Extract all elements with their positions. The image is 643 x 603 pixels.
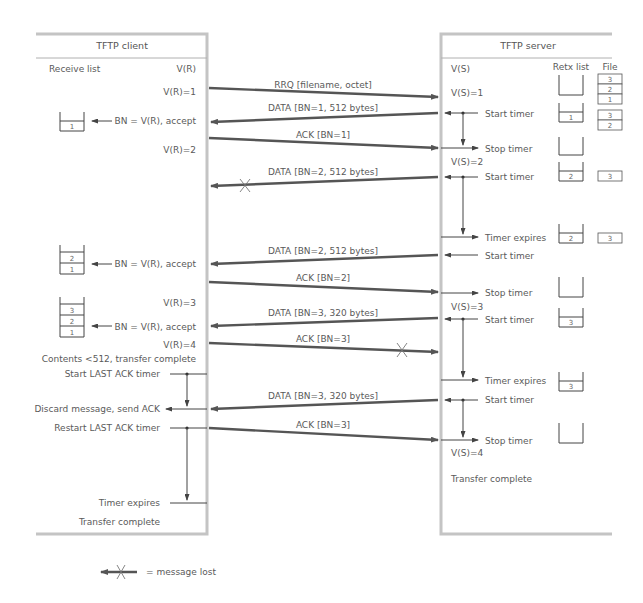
message-data-bn1: DATA [BN=1, 512 bytes]: [211, 103, 438, 122]
svg-text:DATA [BN=2, 512 bytes]: DATA [BN=2, 512 bytes]: [268, 246, 378, 256]
svg-text:3: 3: [608, 76, 612, 84]
server-title: TFTP server: [499, 40, 556, 51]
svg-text:2: 2: [569, 173, 573, 181]
svg-text:2: 2: [70, 255, 74, 263]
client-title: TFTP client: [95, 40, 148, 51]
file-stack-1: 3 2: [598, 110, 622, 130]
message-data-bn2-lost: DATA [BN=2, 512 bytes]: [211, 167, 438, 192]
svg-text:ACK [BN=3]: ACK [BN=3]: [296, 420, 350, 430]
vr-label: V(R): [177, 64, 196, 74]
server-event-vs1: V(S)=1: [451, 88, 483, 98]
retx-list-3: 2: [559, 162, 583, 181]
server-event-start1: Start timer: [485, 109, 534, 119]
svg-text:ACK [BN=2]: ACK [BN=2]: [296, 273, 350, 283]
client-event-restart-last-ack: Restart LAST ACK timer: [54, 423, 160, 433]
legend-lost-label: = message lost: [146, 567, 216, 577]
svg-text:DATA [BN=1, 512 bytes]: DATA [BN=1, 512 bytes]: [268, 103, 378, 113]
server-event-stop2: Stop timer: [485, 288, 533, 298]
server-event-start3b: Start timer: [485, 395, 534, 405]
svg-text:3: 3: [70, 307, 74, 315]
server-event-start3: Start timer: [485, 315, 534, 325]
svg-text:2: 2: [70, 318, 74, 326]
svg-text:DATA [BN=3, 320 bytes]: DATA [BN=3, 320 bytes]: [268, 308, 378, 318]
message-rrq: RRQ [filename, octet]: [209, 80, 438, 97]
client-event-vr3: V(R)=3: [163, 298, 196, 308]
svg-text:3: 3: [608, 235, 612, 243]
client-event-start-last-ack: Start LAST ACK timer: [65, 369, 161, 379]
server-event-transfer-complete: Transfer complete: [450, 474, 533, 484]
client-event-vr1: V(R)=1: [163, 87, 196, 97]
svg-text:3: 3: [608, 173, 612, 181]
file-stack-2: 3: [598, 171, 622, 181]
svg-text:2: 2: [608, 122, 612, 130]
svg-text:3: 3: [569, 383, 573, 391]
messages: RRQ [filename, octet] DATA [BN=1, 512 by…: [209, 80, 438, 440]
svg-text:2: 2: [569, 235, 573, 243]
retx-list-6: 3: [559, 308, 583, 327]
message-ack-bn3-resend: ACK [BN=3]: [209, 420, 438, 440]
server-event-expire3: Timer expires: [484, 376, 547, 386]
svg-text:1: 1: [569, 114, 573, 122]
client-event-contents: Contents <512, transfer complete: [42, 354, 197, 364]
svg-text:3: 3: [569, 319, 573, 327]
file-label: File: [602, 62, 618, 72]
message-ack-bn2: ACK [BN=2]: [209, 273, 438, 292]
svg-text:1: 1: [70, 266, 74, 274]
svg-text:2: 2: [608, 86, 612, 94]
server-event-vs2: V(S)=2: [451, 157, 483, 167]
server-event-vs4: V(S)=4: [451, 448, 483, 458]
client-event-discard: Discard message, send ACK: [34, 404, 161, 414]
client-event-accept1: BN = V(R), accept: [114, 116, 196, 126]
server-event-start2b: Start timer: [485, 251, 534, 261]
svg-text:DATA [BN=2, 512 bytes]: DATA [BN=2, 512 bytes]: [268, 167, 378, 177]
retx-list-4: 2: [559, 224, 583, 243]
server-event-stop1: Stop timer: [485, 144, 533, 154]
client-event-timer-expires: Timer expires: [98, 498, 161, 508]
client-event-accept3: BN = V(R), accept: [114, 322, 196, 332]
retx-list-label: Retx list: [553, 62, 590, 72]
server-panel: TFTP server V(S) Retx list File V(S)=1 S…: [441, 34, 622, 534]
client-event-accept2: BN = V(R), accept: [114, 259, 196, 269]
message-ack-bn1: ACK [BN=1]: [209, 130, 438, 148]
message-data-bn3: DATA [BN=3, 320 bytes]: [211, 308, 438, 326]
message-data-bn3-resend: DATA [BN=3, 320 bytes]: [211, 391, 438, 409]
server-event-start2: Start timer: [485, 172, 534, 182]
retx-list-5: [559, 277, 583, 297]
retx-list-7: 3: [559, 372, 583, 391]
receive-list-3: 3 2 1: [60, 297, 84, 337]
legend: = message lost: [101, 565, 216, 579]
svg-text:1: 1: [70, 329, 74, 337]
svg-text:ACK [BN=1]: ACK [BN=1]: [296, 130, 350, 140]
server-event-expire2: Timer expires: [484, 233, 547, 243]
receive-list-label: Receive list: [49, 64, 101, 74]
retx-list-1: 1: [559, 103, 583, 122]
client-event-transfer-complete: Transfer complete: [78, 517, 161, 527]
message-data-bn2: DATA [BN=2, 512 bytes]: [211, 246, 438, 264]
receive-list-1: 1: [60, 112, 84, 131]
svg-text:1: 1: [70, 123, 74, 131]
file-stack-3: 3: [598, 233, 622, 243]
file-stack-0: 3 2 1: [598, 74, 622, 104]
svg-text:1: 1: [608, 96, 612, 104]
svg-text:ACK [BN=3]: ACK [BN=3]: [296, 334, 350, 344]
svg-text:DATA [BN=3, 320 bytes]: DATA [BN=3, 320 bytes]: [268, 391, 378, 401]
retx-list-8: [559, 423, 583, 443]
retx-list-2: [559, 137, 583, 155]
svg-text:RRQ [filename, octet]: RRQ [filename, octet]: [274, 80, 371, 90]
retx-list-0: [559, 75, 583, 95]
client-event-vr2: V(R)=2: [163, 145, 196, 155]
server-event-stop3: Stop timer: [485, 436, 533, 446]
vs-label: V(S): [451, 64, 470, 74]
server-event-vs3: V(S)=3: [451, 302, 483, 312]
svg-text:3: 3: [608, 112, 612, 120]
receive-list-2: 2 1: [60, 245, 84, 274]
client-panel: TFTP client Receive list V(R) V(R)=1 BN …: [34, 34, 207, 534]
client-event-vr4: V(R)=4: [163, 340, 196, 350]
message-ack-bn3-lost: ACK [BN=3]: [209, 334, 438, 357]
tftp-sequence-diagram: TFTP client Receive list V(R) V(R)=1 BN …: [0, 0, 643, 603]
